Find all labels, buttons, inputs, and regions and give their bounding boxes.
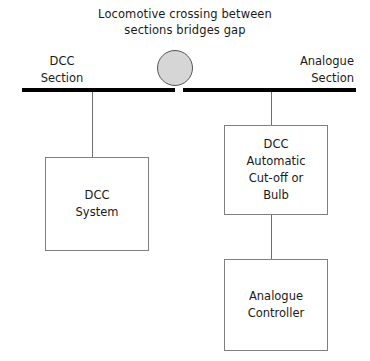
dcc-section-label-line-1: DCC: [30, 53, 94, 70]
node-dcc-system: DCC System: [45, 157, 149, 251]
node-dcc-automatic-cutoff-text: DCC Automatic Cut-off or Bulb: [247, 136, 306, 204]
analogue-section-label-line-2: Section: [278, 70, 354, 87]
node-dcc-automatic-cutoff-line-2: Automatic: [247, 153, 306, 170]
node-analogue-controller-text: Analogue Controller: [248, 288, 305, 322]
node-dcc-system-line-2: System: [76, 204, 119, 221]
node-dcc-automatic-cutoff: DCC Automatic Cut-off or Bulb: [224, 125, 328, 215]
track-rail-analogue-section: [183, 88, 356, 92]
node-dcc-system-line-1: DCC: [76, 187, 119, 204]
track-rail-dcc-section: [22, 88, 175, 92]
analogue-section-label: Analogue Section: [278, 53, 354, 87]
diagram-title-line-1: Locomotive crossing between: [0, 6, 370, 22]
diagram-canvas: Locomotive crossing between sections bri…: [0, 0, 370, 361]
dcc-section-label-line-2: Section: [30, 70, 94, 87]
diagram-title: Locomotive crossing between sections bri…: [0, 6, 370, 38]
dcc-section-label: DCC Section: [30, 53, 94, 87]
connector-track-to-dcc-system: [92, 92, 93, 157]
node-dcc-automatic-cutoff-line-3: Cut-off or: [247, 170, 306, 187]
node-analogue-controller-line-1: Analogue: [248, 288, 305, 305]
diagram-title-line-2: sections bridges gap: [0, 22, 370, 38]
node-analogue-controller-line-2: Controller: [248, 305, 305, 322]
connector-track-to-dcc-cutoff: [271, 92, 272, 125]
node-dcc-automatic-cutoff-line-1: DCC: [247, 136, 306, 153]
locomotive-icon: [157, 50, 193, 86]
node-analogue-controller: Analogue Controller: [224, 259, 328, 351]
analogue-section-label-line-1: Analogue: [278, 53, 354, 70]
node-dcc-automatic-cutoff-line-4: Bulb: [247, 187, 306, 204]
connector-cutoff-to-analogue-controller: [271, 215, 272, 259]
node-dcc-system-text: DCC System: [76, 187, 119, 221]
